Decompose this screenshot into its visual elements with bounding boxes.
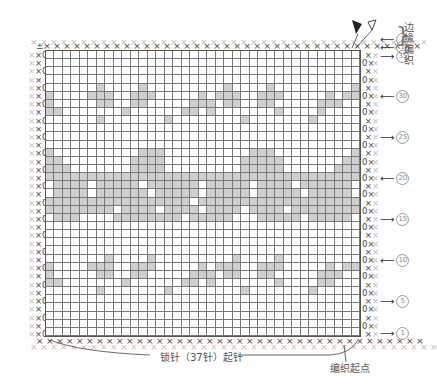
filled-triangle-icon bbox=[352, 20, 362, 34]
outline-triangle-icon bbox=[368, 20, 376, 30]
cast-on-label: 锁针（37针）起针 bbox=[160, 349, 243, 364]
start-point-label: 编织起点 bbox=[330, 360, 370, 375]
